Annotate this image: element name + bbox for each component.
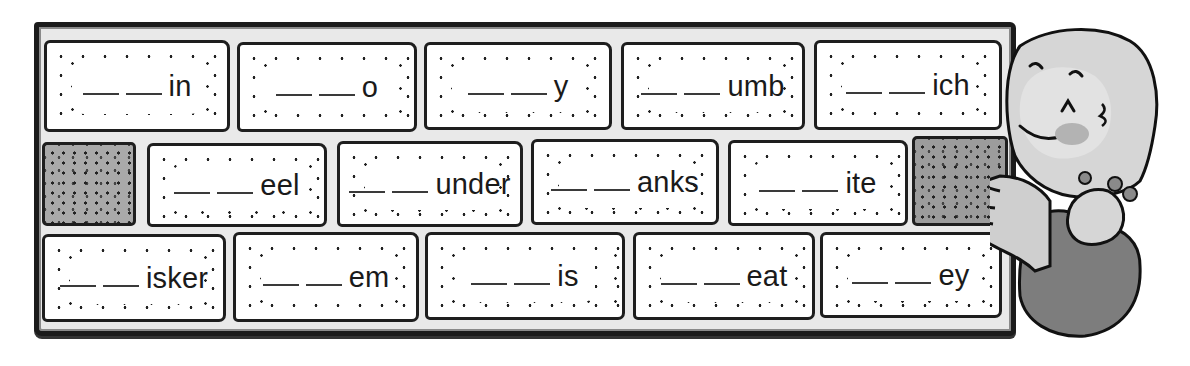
brick-word-ich[interactable]: ich [814,40,1002,130]
blank-line [895,282,931,284]
brick-word-ey[interactable]: ey [820,232,1002,318]
brick-word-eel[interactable]: eel [147,143,327,227]
word-suffix: eat [747,260,788,293]
blank-line [514,283,550,285]
brick-word-y[interactable]: y [424,42,612,130]
cheek-icon [1055,123,1089,145]
blank-line [126,93,162,95]
blank-line [392,191,428,193]
word-suffix: ite [845,167,876,200]
collar-shape [1067,190,1123,245]
word-suffix: umb [727,70,784,103]
word-suffix: in [169,70,192,103]
blank-line [217,192,253,194]
blank-line [641,93,677,95]
blank-line [551,189,587,191]
blank-line [276,94,312,96]
word-suffix: eel [260,169,299,202]
brick-word-in[interactable]: in [44,40,230,132]
blank-line [594,189,630,191]
word-fill-blank: ich [846,69,970,102]
blank-line [684,93,720,95]
word-suffix: ey [938,259,969,292]
word-suffix: em [349,261,390,294]
blank-line [349,191,385,193]
blank-line [511,93,547,95]
brick-word-isker[interactable]: isker [42,234,226,322]
blank-line [759,190,795,192]
word-suffix: isker [146,262,208,295]
word-fill-blank: eel [174,169,299,202]
word-suffix: is [557,260,578,293]
brick-word-umb[interactable]: umb [621,42,805,130]
blank-line [852,282,888,284]
word-suffix: anks [637,166,699,199]
blank-line [704,283,740,285]
brick-word-em[interactable]: em [233,232,419,322]
word-fill-blank: y [468,70,569,103]
word-fill-blank: isker [60,262,208,295]
brick-word-is[interactable]: is [425,232,625,320]
blank-line [661,283,697,285]
face-shape [1020,67,1111,158]
word-suffix: under [435,168,510,201]
brick-word-under[interactable]: under [337,141,523,227]
brick-word-ite[interactable]: ite [728,140,908,226]
word-fill-blank: is [471,260,578,293]
blank-line [263,284,299,286]
brick-word-eat[interactable]: eat [633,232,815,320]
blank-line [319,94,355,96]
word-fill-blank: anks [551,166,699,199]
blank-line [306,284,342,286]
bead-icon [1108,177,1122,191]
blank-line [802,190,838,192]
shaded-half-brick-left [42,142,136,226]
word-fill-blank: o [276,71,378,104]
blank-line [471,283,507,285]
word-suffix: o [362,71,378,104]
blank-line [889,92,925,94]
bead-icon [1079,172,1091,184]
blank-line [83,93,119,95]
word-fill-blank: in [83,70,192,103]
blank-line [468,93,504,95]
word-suffix: y [554,70,569,103]
word-fill-blank: em [263,261,390,294]
girl-illustration [990,26,1170,346]
word-suffix: ich [932,69,970,102]
blank-line [846,92,882,94]
word-fill-blank: umb [641,70,784,103]
word-fill-blank: under [349,168,510,201]
word-fill-blank: ite [759,167,876,200]
blank-line [103,285,139,287]
blank-line [60,285,96,287]
blank-line [174,192,210,194]
word-fill-blank: ey [852,259,969,292]
brick-word-o[interactable]: o [237,42,417,132]
brick-word-anks[interactable]: anks [531,139,719,225]
bead-icon [1123,187,1137,201]
word-fill-blank: eat [661,260,788,293]
